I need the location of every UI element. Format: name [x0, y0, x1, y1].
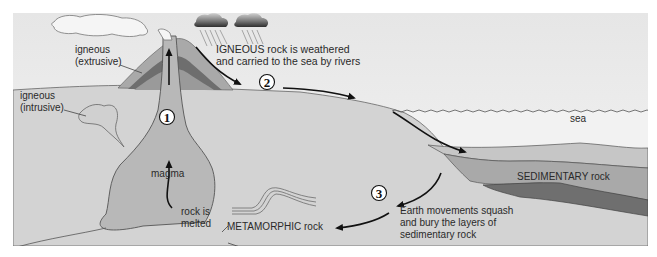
rock-cycle-diagram: 1 2 3 igneous (extrusive) igneous (intru… [0, 0, 657, 257]
label-rock-melted-sub: melted [181, 218, 211, 229]
svg-text:2: 2 [264, 75, 271, 90]
step-3-badge: 3 [372, 186, 387, 201]
label-earth-movements: Earth movements squash [400, 205, 513, 216]
step-1-badge: 1 [160, 110, 175, 125]
label-metamorphic: METAMORPHIC rock [227, 221, 324, 232]
label-weathered-sub: and carried to the sea by rivers [216, 55, 360, 67]
svg-text:1: 1 [164, 110, 171, 125]
label-weathered: IGNEOUS rock is weathered [216, 43, 350, 55]
label-earth-movements-2: and bury the layers of [400, 217, 496, 228]
label-igneous-intrusive-sub: (intrusive) [20, 102, 64, 113]
label-sedimentary: SEDIMENTARY rock [517, 171, 611, 182]
label-magma: magma [151, 168, 185, 179]
label-igneous-extrusive-sub: (extrusive) [75, 56, 122, 67]
label-igneous-extrusive: igneous [75, 44, 110, 55]
step-2-badge: 2 [260, 75, 275, 90]
svg-text:3: 3 [376, 186, 383, 201]
label-sea: sea [570, 113, 587, 124]
label-rock-melted: rock is [181, 206, 210, 217]
label-earth-movements-3: sedimentary rock [400, 229, 477, 240]
label-igneous-intrusive: igneous [20, 90, 55, 101]
